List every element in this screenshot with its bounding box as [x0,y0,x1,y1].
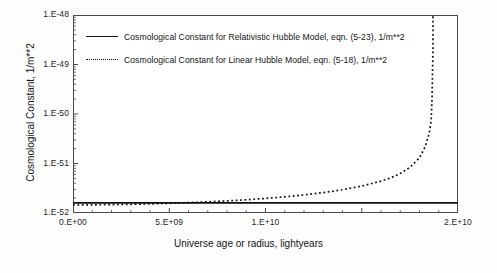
chart-figure: 1.E-481.E-491.E-501.E-511.E-52 0.E+005.E… [0,0,497,273]
y-axis-minor-ticks [73,17,76,198]
legend-label-linear: Cosmological Constant for Linear Hubble … [124,55,387,65]
dotted-line-sample-icon [86,55,118,65]
x-tick-label: 2.E+10 [423,217,493,227]
legend-entry-relativistic: Cosmological Constant for Relativistic H… [86,28,416,46]
x-axis-title: Universe age or radius, lightyears [0,238,497,249]
y-axis-title: Cosmological Constant, 1/m**2 [25,13,36,213]
x-axis-tick-labels: 0.E+005.E+091.E+102.E+10 [0,217,497,231]
chart-legend: Cosmological Constant for Relativistic H… [86,28,416,74]
solid-line-sample-icon [86,32,118,42]
x-tick-label: 1.E+10 [231,217,301,227]
legend-label-relativistic: Cosmological Constant for Relativistic H… [124,32,405,42]
x-tick-label: 5.E+09 [134,217,204,227]
x-tick-label: 0.E+00 [38,217,108,227]
legend-entry-linear: Cosmological Constant for Linear Hubble … [86,51,416,69]
y-axis-title-wrapper: Cosmological Constant, 1/m**2 [0,0,40,273]
